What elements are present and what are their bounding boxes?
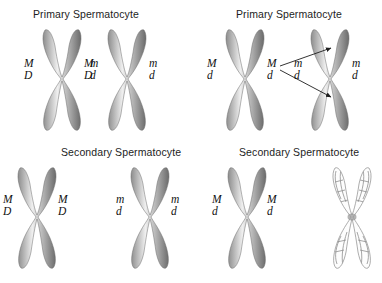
panel-title-top-left: Primary Spermatocyte [33, 8, 139, 20]
allele-tr-c2-right: m d [352, 58, 360, 81]
chromosome-bl-c2 [127, 166, 173, 270]
allele-bottom: d [149, 70, 157, 82]
allele-top: M [24, 57, 34, 69]
allele-top: M [267, 193, 277, 205]
allele-top: m [294, 57, 302, 69]
allele-bottom: d [171, 206, 179, 218]
allele-tl-c2-right: m d [149, 58, 157, 81]
allele-bottom: d [267, 70, 277, 82]
allele-bottom: d [116, 206, 124, 218]
allele-bl-c1-right: M D [58, 194, 68, 217]
allele-top: M [212, 193, 222, 205]
allele-bottom: D [24, 70, 34, 82]
allele-bottom: d [212, 206, 222, 218]
panel-title-bottom-right: Secondary Spermatocyte [239, 146, 359, 158]
allele-top: m [90, 57, 98, 69]
allele-bottom: D [3, 206, 13, 218]
allele-top: m [116, 193, 124, 205]
chromosome-bl-c1 [14, 166, 60, 270]
allele-tr-c2-left: m d [294, 58, 302, 81]
allele-bottom: D [58, 206, 68, 218]
allele-tr-c1-left: M d [207, 58, 217, 81]
allele-top: m [352, 57, 360, 69]
chromosome-tr-c2 [307, 28, 353, 132]
allele-tr-c1-right: M d [267, 58, 277, 81]
chromosome-tl-c2 [104, 28, 150, 132]
allele-top: M [207, 57, 217, 69]
allele-tl-c2-left: m d [90, 58, 98, 81]
panel-title-bottom-left: Secondary Spermatocyte [61, 146, 181, 158]
meiosis-diagram: Primary Spermatocyte [0, 0, 382, 283]
allele-bottom: d [207, 70, 217, 82]
chromosome-br-c1 [224, 166, 270, 270]
allele-top: m [171, 193, 179, 205]
allele-tl-c1-left: M D [24, 58, 34, 81]
chromosome-tl-c1 [39, 28, 85, 132]
chromosome-tr-c1 [222, 28, 268, 132]
allele-bottom: d [352, 70, 360, 82]
allele-bottom: d [90, 70, 98, 82]
allele-top: M [58, 193, 68, 205]
allele-bottom: d [267, 206, 277, 218]
allele-top: m [149, 57, 157, 69]
allele-bottom: d [294, 70, 302, 82]
allele-br-c1-left: M d [212, 194, 222, 217]
allele-top: M [267, 57, 277, 69]
panel-title-top-right: Primary Spermatocyte [236, 8, 342, 20]
chromosome-br-c2 [329, 166, 375, 270]
allele-top: M [3, 193, 13, 205]
allele-br-c1-right: M d [267, 194, 277, 217]
allele-bl-c2-right: m d [171, 194, 179, 217]
allele-bl-c2-left: m d [116, 194, 124, 217]
allele-bl-c1-left: M D [3, 194, 13, 217]
